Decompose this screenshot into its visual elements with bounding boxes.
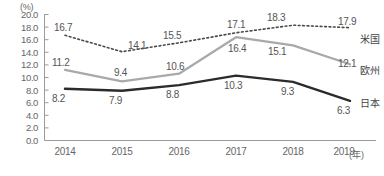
data-label-us-2016: 15.5	[163, 30, 181, 41]
data-label-eu-2016: 10.6	[166, 61, 184, 72]
y-tick-label-4: 4.0	[12, 110, 38, 121]
y-tick-label-2: 2.0	[12, 122, 38, 133]
y-tick-label-0: 0.0	[12, 135, 38, 146]
x-tick-label-2016: 2016	[155, 146, 203, 157]
x-tick-label-2018: 2018	[269, 146, 317, 157]
y-tick-label-16: 16.0	[12, 34, 38, 45]
legend-label-jp: 日本	[360, 95, 380, 110]
y-tick-label-20: 20.0	[12, 9, 38, 20]
y-tick-label-10: 10.0	[12, 72, 38, 83]
data-label-jp-2015: 7.9	[109, 95, 122, 106]
data-label-jp-2014: 8.2	[52, 93, 65, 104]
y-axis-ticks	[45, 15, 49, 141]
data-label-eu-2015: 9.4	[114, 67, 127, 78]
y-tick-label-12: 12.0	[12, 59, 38, 70]
y-tick-label-18: 18.0	[12, 22, 38, 33]
data-label-eu-2019: 12.1	[338, 58, 356, 69]
data-label-eu-2017: 16.4	[228, 43, 246, 54]
legend-label-us: 米国	[360, 31, 380, 46]
data-label-jp-2018: 9.3	[281, 86, 294, 97]
line-chart: (%) 20.0 18.0 16.0 14.0 12.0	[0, 0, 384, 176]
data-label-us-2018: 18.3	[267, 12, 285, 23]
x-axis-unit-label: (年)	[349, 148, 364, 161]
y-tick-label-6: 6.0	[12, 97, 38, 108]
x-tick-label-2014: 2014	[41, 146, 89, 157]
series-line-us	[65, 25, 350, 52]
data-label-us-2019: 17.9	[338, 16, 356, 27]
data-label-eu-2014: 11.2	[52, 57, 70, 68]
data-label-us-2014: 16.7	[54, 22, 72, 33]
data-label-jp-2017: 10.3	[224, 80, 242, 91]
data-label-eu-2018: 15.1	[268, 46, 286, 57]
y-tick-label-14: 14.0	[12, 47, 38, 58]
data-label-us-2017: 17.1	[227, 19, 245, 30]
data-label-us-2015: 14.1	[128, 40, 146, 51]
x-tick-label-2017: 2017	[212, 146, 260, 157]
data-label-jp-2019: 6.3	[337, 105, 350, 116]
data-label-jp-2016: 8.8	[166, 89, 179, 100]
legend-label-eu: 欧州	[360, 62, 380, 77]
y-tick-label-8: 8.0	[12, 85, 38, 96]
x-tick-label-2015: 2015	[98, 146, 146, 157]
series-line-eu	[65, 37, 350, 81]
